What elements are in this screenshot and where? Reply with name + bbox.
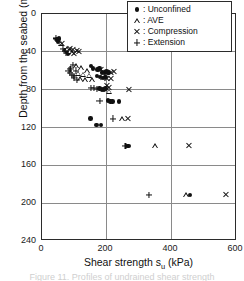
data-point	[89, 77, 95, 82]
data-point	[125, 144, 129, 148]
x-tick-label-600: 600	[220, 244, 244, 253]
x-axis-title-main: Shear strength s	[84, 256, 161, 268]
data-point	[77, 76, 83, 81]
legend-item-unconfined: : Unconfined	[132, 4, 228, 15]
data-point	[56, 39, 60, 43]
plus-icon	[132, 38, 142, 48]
data-point	[55, 37, 59, 41]
legend-item-compression: : Compression	[132, 26, 228, 37]
data-point	[70, 73, 77, 80]
data-point	[66, 70, 73, 77]
data-point	[122, 142, 129, 149]
data-point	[117, 99, 121, 103]
data-point	[91, 66, 95, 70]
data-point	[107, 69, 114, 76]
data-point	[80, 72, 86, 77]
y-tick-label-120: 120	[10, 123, 36, 132]
data-point	[222, 191, 229, 198]
legend-item-ave: : AVE	[132, 15, 228, 26]
data-point	[152, 143, 158, 148]
data-point	[188, 193, 192, 197]
data-point	[104, 75, 111, 82]
data-point	[106, 70, 110, 74]
data-point	[110, 115, 117, 122]
data-point	[75, 71, 81, 76]
data-point	[126, 144, 130, 148]
data-point	[70, 61, 77, 68]
gridline-y-80	[42, 89, 235, 90]
data-point	[108, 75, 115, 82]
data-point	[101, 76, 105, 80]
data-point	[96, 97, 103, 104]
data-point	[54, 37, 61, 44]
legend-label-ave: : AVE	[143, 16, 164, 25]
data-point	[84, 68, 90, 73]
filled-circle-icon	[132, 5, 142, 15]
data-point	[183, 192, 189, 197]
data-point	[73, 76, 80, 83]
data-point	[95, 67, 99, 71]
y-tick-label-160: 160	[10, 160, 36, 169]
legend-label-unconfined: : Unconfined	[143, 5, 191, 14]
data-point	[186, 142, 193, 149]
open-triangle-icon	[132, 16, 142, 26]
legend: : Unconfined : AVE : Compression : Exten…	[127, 1, 232, 52]
data-point	[86, 73, 92, 78]
legend-label-compression: : Compression	[143, 27, 198, 36]
data-point	[70, 46, 77, 53]
y-tick-label-200: 200	[10, 198, 36, 207]
x-tick-label-0: 0	[26, 244, 56, 253]
data-point	[78, 65, 84, 70]
y-tick-label-0: 0	[10, 9, 36, 18]
gridline-y-160	[42, 165, 235, 166]
data-point	[98, 75, 102, 79]
data-point	[100, 70, 104, 74]
data-point	[58, 41, 64, 46]
x-axis-title-unit: (kPa)	[165, 256, 193, 268]
cross-x-icon	[132, 27, 142, 37]
data-point	[71, 75, 78, 82]
data-point	[53, 35, 60, 42]
legend-label-extension: : Extension	[143, 38, 185, 47]
data-point	[110, 99, 114, 103]
data-point	[88, 116, 92, 120]
data-point	[82, 77, 88, 82]
data-point	[72, 67, 79, 74]
legend-item-extension: : Extension	[132, 37, 228, 48]
y-tick-label-40: 40	[10, 47, 36, 56]
data-point	[68, 72, 75, 79]
data-point	[97, 66, 104, 73]
y-tick-label-80: 80	[10, 85, 36, 94]
data-point	[66, 51, 70, 55]
x-tick-label-200: 200	[90, 244, 120, 253]
data-point	[73, 63, 79, 68]
data-point	[119, 116, 125, 121]
data-point	[125, 115, 132, 122]
x-axis-title: Shear strength su (kPa)	[41, 256, 236, 271]
data-point	[95, 74, 99, 78]
data-point	[108, 99, 112, 103]
figure-container: Depth from the seabed (m) 0 40 80 120 16…	[0, 0, 244, 281]
data-point	[110, 68, 117, 75]
gridline-y-200	[42, 203, 235, 204]
x-tick-label-400: 400	[155, 244, 185, 253]
data-point	[57, 36, 61, 40]
data-point	[89, 64, 93, 68]
data-point	[67, 65, 74, 72]
data-point	[97, 66, 101, 70]
figure-caption: Figure 11. Profiles of undrained shear s…	[0, 272, 244, 281]
gridline-y-120	[42, 127, 235, 128]
data-point	[59, 40, 66, 47]
data-point	[65, 67, 72, 74]
data-point	[145, 191, 152, 198]
